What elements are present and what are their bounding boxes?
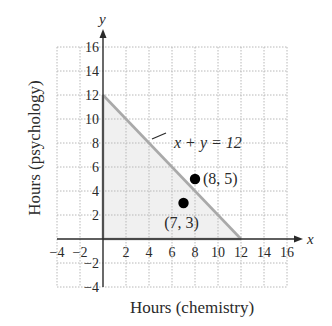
x-tick-label: 16	[280, 245, 294, 260]
x-axis-arrow-icon	[294, 236, 303, 243]
chart: −4−2246810121416−4−2246810121416 (8, 5)(…	[0, 0, 332, 326]
x-tick-label: 8	[192, 245, 199, 260]
x-axis-title: Hours (chemistry)	[130, 298, 254, 317]
y-tick-label: 14	[85, 64, 99, 79]
y-tick-label: 8	[92, 136, 99, 151]
y-tick-label: 6	[92, 160, 99, 175]
x-tick-label: 10	[211, 245, 225, 260]
x-tick-label: −4	[50, 245, 65, 260]
data-point-label: (8, 5)	[203, 170, 238, 188]
y-tick-label: 10	[85, 112, 99, 127]
y-axis-arrow-icon	[100, 29, 107, 38]
x-axis-variable: x	[306, 231, 314, 247]
data-point	[178, 198, 188, 208]
data-point	[190, 174, 200, 184]
y-tick-label: 16	[85, 40, 99, 55]
x-tick-label: 6	[169, 245, 176, 260]
x-tick-label: 12	[234, 245, 248, 260]
x-tick-label: 14	[257, 245, 271, 260]
data-point-label: (7, 3)	[164, 214, 199, 232]
y-axis-title: Hours (psychology)	[25, 80, 44, 216]
x-tick-label: 4	[146, 245, 153, 260]
y-tick-label: −4	[84, 280, 99, 295]
y-tick-label: 2	[92, 208, 99, 223]
line-label-leader	[152, 133, 166, 139]
y-tick-label: 12	[85, 88, 99, 103]
y-tick-label: −2	[84, 256, 99, 271]
y-tick-label: 4	[92, 184, 99, 199]
line-equation-label: x + y = 12	[173, 134, 242, 152]
x-tick-label: 2	[123, 245, 130, 260]
y-axis-variable: y	[97, 11, 106, 27]
